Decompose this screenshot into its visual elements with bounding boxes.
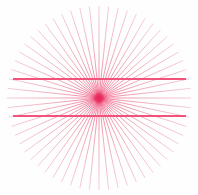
illusion-figure-container: [0, 0, 198, 195]
starburst-diagram: [0, 0, 198, 195]
